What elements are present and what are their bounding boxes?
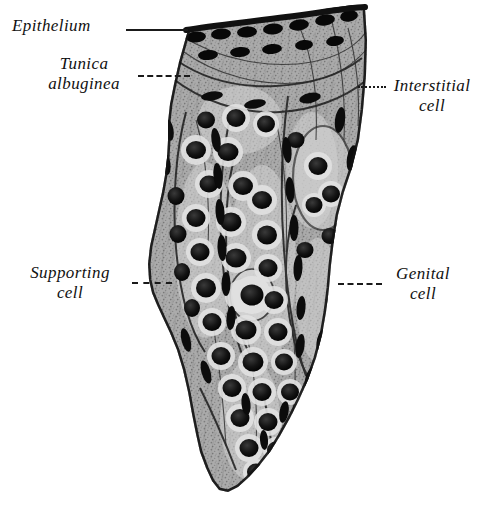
label-supporting-cell: Supporting cell	[14, 263, 126, 303]
label-interstitial-line2: cell	[384, 96, 480, 116]
label-genital-line1: Genital	[382, 264, 464, 284]
label-supporting-line2: cell	[14, 283, 126, 303]
label-tunica-albuginea: Tunica albuginea	[28, 54, 140, 94]
label-genital-line2: cell	[382, 284, 464, 304]
histology-figure: Epithelium Tunica albuginea Interstitial…	[0, 0, 485, 532]
leader-supporting-cell	[132, 282, 172, 284]
label-epithelium: Epithelium	[12, 16, 91, 35]
leader-interstitial-cell	[358, 86, 386, 88]
leader-genital-cell	[338, 283, 382, 285]
label-interstitial-line1: Interstitial	[384, 76, 480, 96]
label-genital-cell: Genital cell	[382, 264, 464, 304]
label-interstitial-cell: Interstitial cell	[384, 76, 480, 116]
label-supporting-line1: Supporting	[14, 263, 126, 283]
label-epithelium-line1: Epithelium	[12, 16, 91, 35]
leader-tunica-albuginea	[138, 75, 190, 77]
leader-epithelium	[126, 29, 188, 31]
label-tunica-line2: albuginea	[28, 74, 140, 94]
label-tunica-line1: Tunica	[28, 54, 140, 74]
